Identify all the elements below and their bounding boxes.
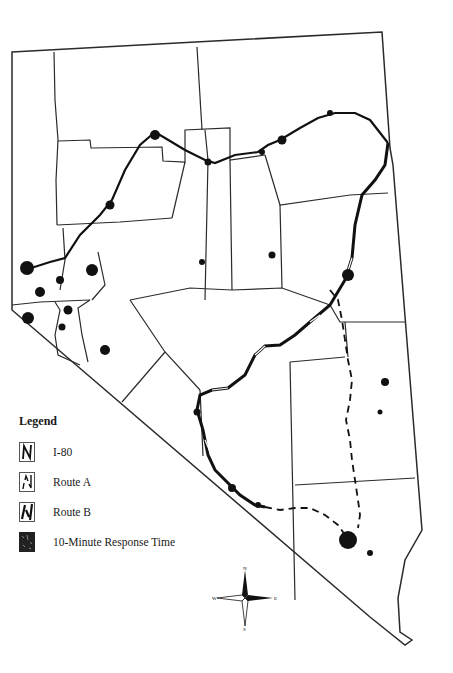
legend-label: 10-Minute Response Time — [53, 536, 175, 548]
legend-item-route-a: Route A — [16, 467, 216, 497]
legend-item-response: 10-Minute Response Time — [16, 527, 216, 557]
legend-item-route-b: Route B — [16, 497, 216, 527]
legend: Legend I-80 Route A Route B 10-Minute Re… — [16, 414, 216, 557]
legend-label: Route B — [53, 506, 91, 518]
compass-n: N — [243, 566, 247, 571]
compass-s: S — [243, 627, 246, 631]
legend-label: I-80 — [53, 446, 72, 458]
route-a-line-icon — [19, 472, 35, 492]
legend-item-i80: I-80 — [16, 437, 216, 467]
i80-line-icon — [19, 442, 35, 462]
legend-label: Route A — [53, 476, 91, 488]
compass-w: W — [212, 596, 217, 601]
route-a — [197, 143, 388, 507]
compass-rose-icon: N S E W — [212, 565, 278, 631]
compass-e: E — [274, 596, 277, 601]
route-b-line-icon — [19, 502, 35, 522]
response-area-icon — [19, 532, 35, 552]
legend-title: Legend — [19, 414, 216, 429]
